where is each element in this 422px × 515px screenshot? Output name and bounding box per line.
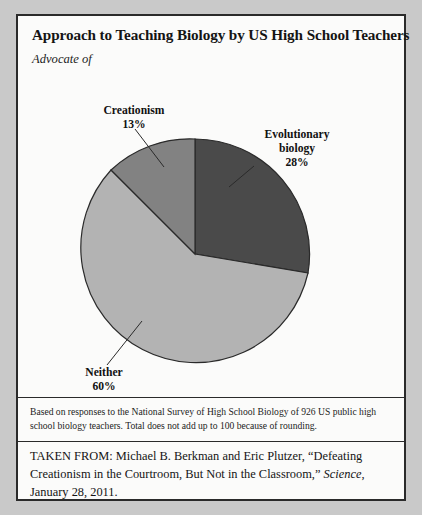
pie-chart-svg bbox=[18, 16, 404, 398]
figure-frame: Approach to Teaching Biology by US High … bbox=[16, 14, 406, 501]
pie-label-neither: Neither 60% bbox=[56, 366, 152, 394]
pie-label-creationism: Creationism 13% bbox=[80, 104, 188, 132]
pie-label-evolutionary-biology: Evolutionary biology 28% bbox=[242, 128, 352, 170]
divider-above-footnote bbox=[18, 397, 404, 398]
pie-label-neither-name: Neither bbox=[85, 366, 122, 379]
pie-label-neither-value: 60% bbox=[92, 380, 115, 393]
pie-label-evolutionary-biology-name2: biology bbox=[279, 142, 315, 155]
source-attribution-prefix: TAKEN FROM: Michael B. Berkman and Eric … bbox=[30, 449, 362, 481]
source-attribution-journal: Science bbox=[324, 467, 362, 481]
pie-chart-plot-area: Creationism 13% Evolutionary biology 28%… bbox=[18, 16, 404, 398]
chart-footnote: Based on responses to the National Surve… bbox=[30, 405, 392, 432]
pie-label-creationism-name: Creationism bbox=[104, 104, 165, 117]
pie-label-evolutionary-biology-name: Evolutionary bbox=[264, 128, 329, 141]
pie-label-evolutionary-biology-value: 28% bbox=[285, 156, 308, 169]
source-attribution: TAKEN FROM: Michael B. Berkman and Eric … bbox=[30, 448, 394, 502]
pie-label-creationism-value: 13% bbox=[122, 118, 145, 131]
divider-above-source bbox=[18, 441, 404, 442]
